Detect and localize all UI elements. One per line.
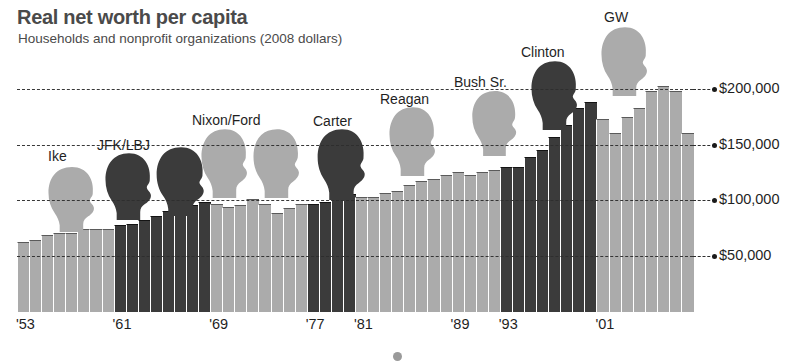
bar (126, 224, 139, 312)
x-axis-tick-label: '53 (16, 316, 35, 332)
bar (271, 213, 284, 312)
bar (283, 208, 296, 312)
bar (343, 194, 356, 312)
bar (488, 170, 501, 312)
bar (295, 204, 308, 312)
y-axis-tick-label: $150,000 (719, 136, 779, 152)
bar (114, 225, 127, 312)
y-tick-dot (712, 254, 717, 259)
bar (331, 197, 344, 312)
x-axis-tick-label: '69 (209, 316, 228, 332)
president-silhouette-icon (597, 26, 653, 96)
bar (210, 204, 223, 312)
bar (222, 207, 235, 312)
bar (258, 204, 271, 312)
president-label: JFK/LBJ (97, 137, 150, 153)
bar (53, 233, 66, 312)
bar (427, 179, 440, 312)
bar (77, 229, 90, 313)
bar (524, 157, 537, 312)
president-label: Reagan (380, 91, 429, 107)
bar (464, 175, 477, 312)
bar (307, 204, 320, 312)
bar (186, 205, 199, 312)
bar (138, 220, 151, 312)
bar (174, 212, 187, 312)
bar (596, 119, 609, 312)
bar (29, 240, 42, 312)
bar (500, 167, 513, 312)
x-axis-tick-label: '01 (595, 316, 614, 332)
president-label: Bush Sr. (454, 74, 507, 90)
bar (150, 216, 163, 312)
bar (17, 242, 30, 312)
bar (584, 102, 597, 312)
bar (669, 91, 682, 312)
bar (560, 125, 573, 312)
president-label: GW (604, 9, 628, 25)
gridline (17, 200, 693, 201)
chart-root: Real net worth per capita Households and… (0, 0, 795, 364)
y-tick-dot (712, 198, 717, 203)
y-tick-dot (712, 87, 717, 92)
president-silhouette-icon (313, 128, 371, 200)
bar (41, 235, 54, 312)
bar (162, 211, 175, 312)
bar (65, 233, 78, 312)
bar (89, 229, 102, 313)
president-silhouette-icon (249, 128, 305, 198)
president-silhouette-icon (197, 128, 253, 198)
bar (355, 197, 368, 312)
x-axis-tick-label: '81 (354, 316, 373, 332)
gridline (17, 256, 693, 257)
bar (234, 205, 247, 312)
president-silhouette-icon (385, 106, 441, 176)
y-axis-tick-label: $100,000 (719, 191, 779, 207)
bar (633, 108, 646, 312)
y-axis-tick-label: $200,000 (719, 80, 779, 96)
y-axis-tick-label: $50,000 (719, 247, 771, 263)
bar (403, 185, 416, 312)
bar (452, 172, 465, 312)
president-label: Nixon/Ford (192, 112, 260, 128)
president-silhouette-icon (101, 152, 157, 220)
x-axis-tick-label: '61 (113, 316, 132, 332)
x-axis-tick-label: '93 (499, 316, 518, 332)
bar (391, 191, 404, 312)
president-silhouette-icon (468, 90, 522, 156)
bar (536, 150, 549, 312)
bar (548, 137, 561, 312)
president-silhouette-icon (44, 166, 100, 232)
bar (379, 193, 392, 312)
bar (102, 229, 115, 313)
bar (609, 133, 622, 312)
gridline (17, 89, 693, 90)
bar (621, 117, 634, 312)
bar (657, 86, 670, 312)
president-silhouette-icon (527, 60, 583, 130)
president-label: Clinton (521, 44, 565, 60)
bar (440, 175, 453, 312)
president-label: Carter (313, 113, 352, 129)
bar (367, 197, 380, 312)
bar (572, 108, 585, 312)
bar (476, 172, 489, 312)
bar (512, 167, 525, 312)
bar (645, 91, 658, 312)
footer-marker-dot (393, 352, 402, 361)
bar (681, 133, 694, 312)
x-axis-tick-label: '77 (306, 316, 325, 332)
y-tick-dot (712, 143, 717, 148)
president-label: Ike (48, 148, 67, 164)
x-axis-tick-label: '89 (451, 316, 470, 332)
